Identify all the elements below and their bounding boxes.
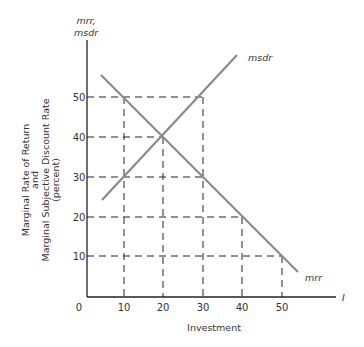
x-axis-symbol: I [342, 292, 345, 303]
x-tick-0: 0 [76, 302, 82, 313]
msdr-label: msdr [248, 52, 273, 63]
x-tick-10: 10 [118, 302, 131, 313]
y-tick-50: 50 [73, 92, 86, 103]
x-tick-20: 20 [157, 302, 170, 313]
y-axis-symbol-line1: mrr, [76, 15, 95, 26]
x-tick-50: 50 [276, 302, 289, 313]
y-tick-30: 30 [73, 172, 86, 183]
y-tick-10: 10 [73, 251, 86, 262]
x-tick-40: 40 [236, 302, 249, 313]
guide-lines [87, 97, 282, 297]
y-label-line2: and [29, 171, 40, 189]
chart: 50 40 30 20 10 0 10 20 30 40 50 mrr, msd… [0, 0, 364, 347]
y-axis-label: Marginal Rate of Return and Marginal Sub… [20, 98, 61, 261]
y-label-line4: (percent) [50, 158, 61, 202]
y-axis-symbol-line2: msdr [74, 27, 99, 38]
mrr-line [101, 75, 298, 272]
msdr-line [102, 55, 237, 200]
y-tick-20: 20 [73, 212, 86, 223]
x-axis-label: Investment [187, 322, 241, 333]
mrr-label: mrr [305, 272, 323, 283]
y-tick-40: 40 [73, 132, 86, 143]
x-tick-30: 30 [197, 302, 210, 313]
